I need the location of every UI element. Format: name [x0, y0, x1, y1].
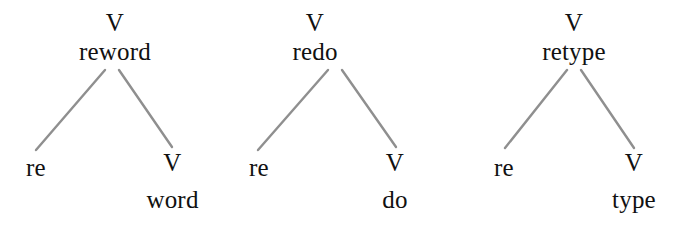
tree-3-root-category: V	[459, 10, 689, 35]
tree-2-left-leaf: re	[230, 155, 288, 180]
tree-1-right-leaf-category: V	[130, 150, 215, 175]
tree-diagram-1: V reword re V word	[0, 0, 230, 235]
branch-right	[342, 70, 396, 147]
tree-3-right-leaf-category: V	[591, 150, 677, 175]
tree-1-root-form: reword	[0, 39, 230, 64]
tree-2-right-leaf: V do	[355, 150, 435, 212]
tree-1-left-leaf: re	[6, 155, 66, 180]
branch-right	[119, 70, 172, 147]
tree-2-root-category: V	[200, 10, 430, 35]
morphology-tree-figure: V reword re V word V redo re V do	[0, 0, 689, 235]
branch-left	[258, 70, 328, 150]
branch-left	[505, 70, 567, 148]
branch-right	[581, 70, 634, 148]
tree-1-right-leaf-form: word	[130, 187, 215, 212]
tree-3-right-leaf: V type	[591, 150, 677, 212]
tree-1-left-leaf-form: re	[26, 154, 46, 181]
tree-3-left-leaf: re	[475, 155, 533, 180]
tree-2-root-form: redo	[200, 39, 430, 64]
tree-diagram-2: V redo re V do	[230, 0, 460, 235]
tree-3-left-leaf-form: re	[494, 154, 514, 181]
tree-1-root-category: V	[0, 10, 230, 35]
tree-3-root-node: V retype	[459, 10, 689, 64]
tree-3-right-leaf-form: type	[591, 187, 677, 212]
tree-3-root-form: retype	[459, 39, 689, 64]
tree-2-right-leaf-form: do	[355, 187, 435, 212]
tree-2-right-leaf-category: V	[355, 150, 435, 175]
tree-diagram-3: V retype re V type	[459, 0, 689, 235]
tree-2-root-node: V redo	[200, 10, 430, 64]
branch-left	[36, 70, 105, 150]
tree-1-right-leaf: V word	[130, 150, 215, 212]
tree-1-root-node: V reword	[0, 10, 230, 64]
tree-2-left-leaf-form: re	[249, 154, 269, 181]
